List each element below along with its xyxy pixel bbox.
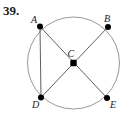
vertex-label-b: B [104,14,110,24]
vertex-label-d: D [32,100,39,110]
geometry-figure-container: 39. A B C D E [0,0,129,115]
vertex-label-e: E [110,100,116,110]
vertex-label-c: C [68,49,75,59]
vertex-label-a: A [31,15,37,25]
chord-a-d [40,27,41,98]
vertex-point-a [37,24,43,30]
vertex-point-b [105,24,111,30]
vertex-point-c [70,60,76,66]
